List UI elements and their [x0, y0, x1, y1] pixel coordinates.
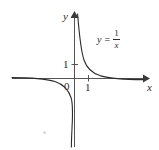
fraction: 1 x — [113, 29, 120, 50]
equation-operator: = — [104, 35, 110, 45]
x-tick-label-one: 1 — [85, 82, 91, 93]
reciprocal-function-figure: y x 1 0 1 y = 1 x — [0, 0, 159, 150]
fraction-numerator: 1 — [113, 29, 120, 39]
x-axis-label: x — [147, 82, 152, 93]
y-axis-label: y — [63, 11, 68, 22]
origin-label: 0 — [64, 81, 70, 92]
equation-annotation: y = 1 x — [97, 29, 120, 50]
y-tick-label-one: 1 — [63, 59, 69, 70]
fraction-denominator: x — [114, 40, 120, 50]
scan-artifact-dot — [43, 131, 46, 134]
equation-lhs: y — [97, 35, 101, 45]
plot-canvas — [0, 0, 159, 150]
